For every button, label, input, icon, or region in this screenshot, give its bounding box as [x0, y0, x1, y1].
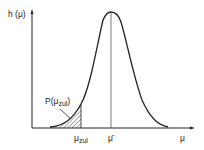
y-axis-arrow-icon	[31, 9, 34, 14]
x-axis-arrow-icon	[190, 127, 195, 130]
area-leader-line	[60, 109, 71, 119]
threshold-label: μzul	[74, 133, 88, 144]
area-label: P(μzul)	[45, 96, 70, 107]
y-axis-label: h (μ)	[8, 9, 26, 19]
distribution-diagram: h (μ) μ μ̄ μzul P(μzul)	[0, 0, 204, 150]
x-axis-label: μ	[180, 133, 185, 143]
density-curve	[50, 12, 168, 127]
mean-label: μ̄	[108, 133, 115, 143]
hatched-area	[50, 104, 81, 128]
